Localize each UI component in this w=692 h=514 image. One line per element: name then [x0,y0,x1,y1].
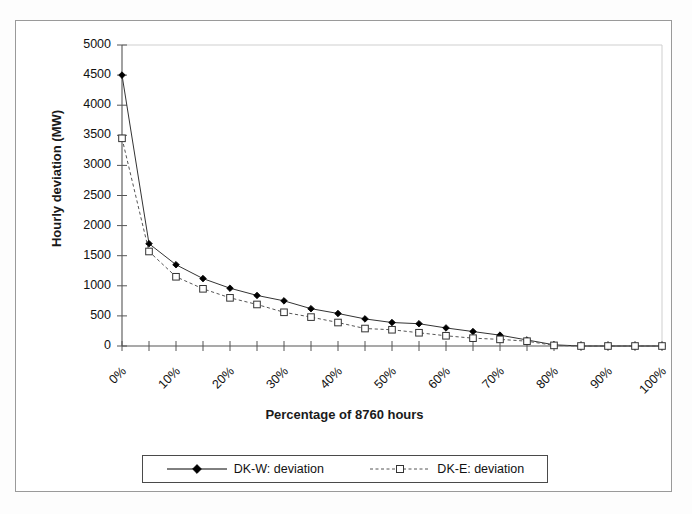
data-point-marker [308,314,315,321]
y-tick-label: 5000 [83,37,111,51]
data-point-marker [362,316,369,323]
y-tick-label: 3000 [83,157,111,171]
data-point-marker [173,273,180,280]
y-axis-title: Hourly deviation (MW) [49,79,64,279]
y-tick-label: 1000 [83,278,111,292]
data-point-marker [389,326,396,333]
legend-swatch-dashed-square-icon [369,462,431,476]
data-point-marker [551,342,558,349]
legend-label-dk-w: DK-W: deviation [234,462,324,476]
data-point-marker [227,295,234,302]
y-tick-label: 3500 [83,127,111,141]
data-point-marker [254,292,261,299]
y-tick-label: 2500 [83,188,111,202]
figure-canvas: Hourly deviation (MW) Percentage of 8760… [0,0,692,514]
data-point-marker [281,309,288,316]
chart-legend: DK-W: deviation DK-E: deviation [142,455,548,483]
data-point-marker [659,343,666,350]
legend-item-dk-w: DK-W: deviation [166,462,324,476]
data-point-marker [632,343,639,350]
data-point-marker [497,336,504,343]
data-point-marker [362,325,369,332]
y-tick-label: 2000 [83,218,111,232]
legend-item-dk-e: DK-E: deviation [369,462,524,476]
y-tick-label: 1500 [83,248,111,262]
data-point-marker [119,135,126,142]
data-point-marker [443,332,450,339]
data-point-marker [281,298,288,305]
figure-border: Hourly deviation (MW) Percentage of 8760… [15,20,672,492]
data-point-marker [200,275,207,282]
data-point-marker [146,248,153,255]
y-tick-label: 4000 [83,97,111,111]
y-tick-label: 0 [104,338,111,352]
data-point-marker [605,343,612,350]
legend-label-dk-e: DK-E: deviation [437,462,524,476]
data-point-marker [254,301,261,308]
data-point-marker [389,319,396,326]
chart-plot-area [16,21,673,493]
y-tick-label: 500 [90,308,111,322]
data-point-marker [335,310,342,317]
data-point-marker [443,325,450,332]
data-point-marker [227,285,234,292]
data-point-marker [416,320,423,327]
series-line-2 [122,138,662,346]
data-point-marker [308,305,315,312]
data-point-marker [200,286,207,293]
series-line-1 [122,75,662,346]
data-point-marker [578,343,585,350]
y-tick-label: 4500 [83,67,111,81]
data-point-marker [524,338,531,345]
data-point-marker [119,72,126,79]
data-point-marker [470,335,477,342]
data-point-marker [470,328,477,335]
legend-swatch-solid-diamond-icon [166,462,228,476]
data-point-marker [335,319,342,326]
data-point-marker [416,329,423,336]
